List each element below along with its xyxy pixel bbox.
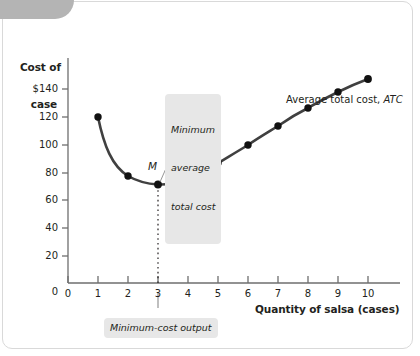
x-tick-label-8: 8 [293,288,323,300]
data-point [244,141,251,148]
x-tick-label-9: 9 [323,288,353,300]
figure-root: Cost of case $140 120 100 80 60 40 20 0 … [0,0,420,356]
y-axis-title-line1: Cost of [20,61,68,73]
data-point [274,122,281,129]
x-tick-label-4: 4 [173,288,203,300]
point-label-m: M [148,160,157,172]
data-point [124,172,131,179]
x-tick-label-2: 2 [113,288,143,300]
y-tick-label-40: 40 [8,222,58,234]
series-label-text: Average total cost, [286,94,383,105]
y-tick-label-60: 60 [8,194,58,206]
y-tick-label-120: 120 [8,111,58,123]
x-tick-label-3: 3 [143,288,173,300]
callout-line-1: Minimum [171,124,215,137]
x-tick-label-0: 0 [53,288,83,300]
x-tick-label-6: 6 [233,288,263,300]
callout-minimum-cost-output: Minimum-cost output [104,318,218,338]
series-label-atc: Average total cost, ATC [267,82,403,117]
data-point [94,113,101,120]
y-tick-label-0: 0 [8,286,58,298]
x-tick-label-1: 1 [83,288,113,300]
chart-canvas: Cost of case $140 120 100 80 60 40 20 0 … [0,0,420,356]
x-tick-label-7: 7 [263,288,293,300]
y-axis-title-line2: case [20,98,68,110]
data-point-minimum [154,181,162,189]
series-label-abbrev: ATC [383,94,402,105]
callout-line-3: total cost [171,201,215,214]
x-tick-label-5: 5 [203,288,233,300]
y-tick-label-140: $140 [8,83,58,95]
x-tick-label-10: 10 [353,288,383,300]
y-tick-label-20: 20 [8,250,58,262]
x-tick-marks [68,276,368,283]
callout-minimum-average-total-cost: Minimum average total cost [165,94,221,244]
callout-line-2: average [171,162,215,175]
y-tick-label-80: 80 [8,167,58,179]
y-tick-label-100: 100 [8,139,58,151]
x-axis-title: Quantity of salsa (cases) [255,303,400,315]
